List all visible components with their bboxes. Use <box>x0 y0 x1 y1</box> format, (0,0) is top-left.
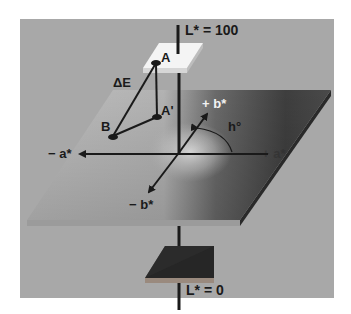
point-b <box>108 134 118 140</box>
label-delta-e: ΔE <box>113 75 131 90</box>
label-plus-b: + b* <box>202 96 227 111</box>
label-plus-a: + a* <box>262 146 286 161</box>
cielab-diagram: L* = 100 L* = 0 A A' B ΔE + b* − b* − a*… <box>0 0 351 314</box>
label-hue: h° <box>228 119 241 134</box>
label-minus-b: − b* <box>129 197 154 212</box>
point-a <box>151 60 161 66</box>
label-point-a-prime: A' <box>161 103 173 118</box>
a-projection-line <box>156 63 157 117</box>
label-point-b: B <box>101 119 110 134</box>
label-point-a: A <box>161 50 171 65</box>
label-l-100: L* = 100 <box>185 22 239 38</box>
label-minus-a: − a* <box>48 146 72 161</box>
label-l-0: L* = 0 <box>186 282 224 298</box>
